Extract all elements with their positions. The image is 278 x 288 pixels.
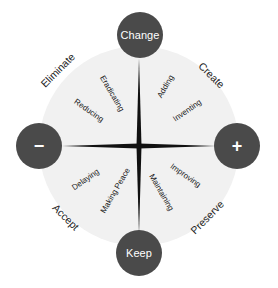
change-node[interactable]: Change bbox=[117, 12, 163, 58]
keep-node[interactable]: Keep bbox=[116, 230, 162, 276]
axis-horizontal bbox=[62, 144, 216, 149]
change-keep-diagram: Eliminate Create Accept Preserve Eradica… bbox=[0, 0, 278, 288]
plus-icon: + bbox=[232, 136, 243, 157]
keep-label: Keep bbox=[126, 247, 152, 259]
change-label: Change bbox=[120, 29, 159, 41]
plus-node[interactable]: + bbox=[214, 123, 260, 169]
minus-node[interactable]: − bbox=[16, 123, 62, 169]
minus-icon: − bbox=[34, 136, 45, 157]
